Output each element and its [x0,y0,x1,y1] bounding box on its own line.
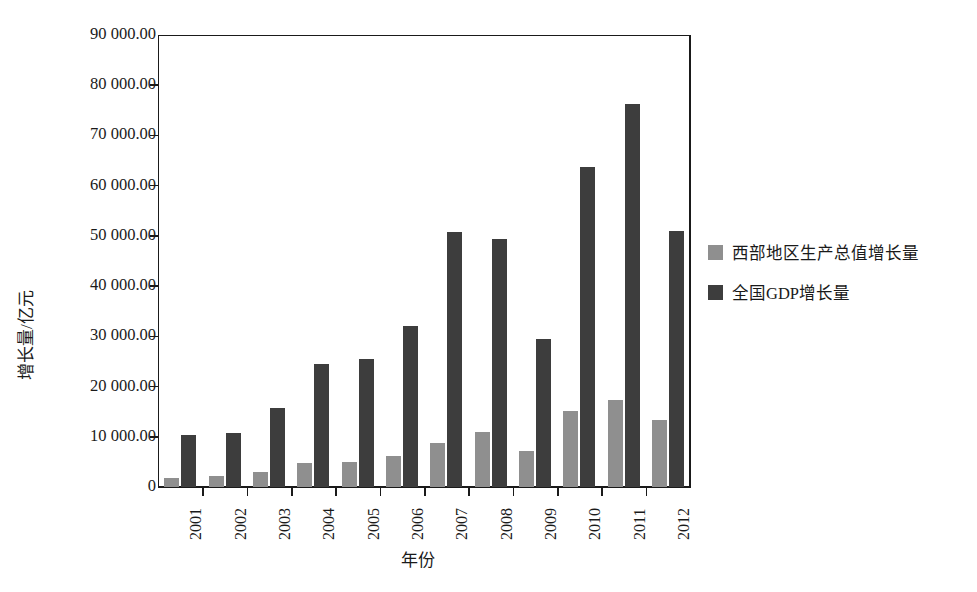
legend-item-2: 全国GDP增长量 [708,283,970,301]
x-axis-title: 年份 [338,546,498,571]
bar-chart: 增长量/亿元 010 000.0020 000.0030 000.0040 00… [0,0,977,592]
x-axis-tick-label-2010: 2010 [586,508,604,540]
x-axis-tick-label-2009: 2009 [542,508,560,540]
x-axis-tick-label-2005: 2005 [365,508,383,540]
x-axis-tick-label-2012: 2012 [675,508,693,540]
chart-legend: 西部地区生产总值增长量全国GDP增长量 [708,243,970,323]
legend-swatch-icon [708,285,723,300]
legend-swatch-icon [708,245,723,260]
legend-item-1: 西部地区生产总值增长量 [708,243,970,261]
x-axis-tick-label-2002: 2002 [232,508,250,540]
legend-label: 西部地区生产总值增长量 [732,240,919,264]
x-axis-tick-label-2003: 2003 [276,508,294,540]
x-axis-tick-label-2011: 2011 [631,509,649,540]
x-axis-tick-label-2008: 2008 [498,508,516,540]
x-axis-tick-label-2004: 2004 [320,508,338,540]
x-axis-tick-label-2001: 2001 [187,508,205,540]
x-axis-tick-label-2007: 2007 [453,508,471,540]
x-axis-tick-label-2006: 2006 [409,508,427,540]
legend-label: 全国GDP增长量 [732,280,850,304]
